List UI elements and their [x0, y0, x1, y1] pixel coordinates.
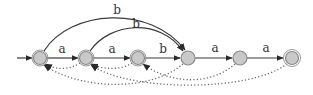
transition-label: a [211, 41, 218, 55]
failure-link-q3-q0 [44, 64, 183, 84]
failure-link-q5-q1 [91, 64, 287, 85]
transition-q3-q4: a [195, 41, 232, 58]
transition-label: a [108, 42, 115, 56]
failure-link-q2-q1 [91, 63, 132, 68]
state-q0 [32, 50, 48, 66]
transition-label: b [132, 17, 140, 31]
transition-q1-q2: a [93, 42, 130, 58]
transition-q0-q1: a [47, 42, 78, 58]
state-q3 [181, 51, 195, 65]
state-q5-accepting [284, 50, 301, 67]
state-q2 [130, 50, 146, 66]
transition-q2-q3: b [145, 42, 180, 58]
failure-link-q1-q0 [45, 63, 80, 68]
transition-label: a [262, 41, 269, 55]
transition-label: a [58, 42, 65, 56]
transition-label: b [113, 3, 121, 17]
state-q1 [78, 50, 94, 66]
failure-links [44, 63, 287, 85]
automaton-diagram: a a b a a b b [0, 0, 313, 95]
failure-link-q4-q2 [143, 64, 235, 80]
transition-q4-q5: a [247, 41, 283, 58]
transition-label: b [159, 42, 167, 56]
state-q4 [233, 51, 247, 65]
